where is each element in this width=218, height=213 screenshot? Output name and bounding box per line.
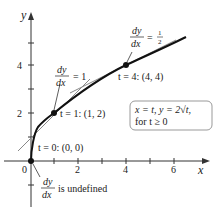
equation-line-2: for t ≥ 0 (135, 116, 167, 127)
svg-text:dx: dx (131, 38, 141, 49)
svg-text:=: = (147, 32, 153, 43)
svg-text:dy: dy (57, 64, 67, 75)
point-label-t0: t = 0: (0, 0) (38, 142, 83, 154)
slope-annotation-t4: dy dx = 1 2 (130, 25, 163, 49)
y-axis-label: y (20, 8, 27, 22)
svg-text:is undefined: is undefined (58, 183, 107, 194)
x-tick-2: 2 (75, 164, 80, 175)
y-tick-4: 4 (17, 60, 22, 71)
x-tick-4: 4 (123, 164, 128, 175)
svg-text:2: 2 (158, 38, 162, 46)
point-label-t1: t = 1: (1, 2) (60, 108, 105, 120)
point-t4 (123, 62, 129, 68)
diagram-canvas: y x 0 2 4 6 2 4 t = 0: (0, 0) t = 1: (1,… (0, 0, 218, 213)
svg-text:1: 1 (158, 29, 162, 37)
svg-text:dx: dx (56, 77, 66, 88)
slope-annotation-t1: dy dx = 1 (55, 64, 86, 88)
equation-line-1: x = t, y = 2√t, (134, 104, 191, 115)
point-t1 (51, 110, 57, 116)
svg-text:= 1: = 1 (73, 71, 86, 82)
parametric-diagram: y x 0 2 4 6 2 4 t = 0: (0, 0) t = 1: (1,… (0, 0, 218, 213)
x-tick-6: 6 (171, 164, 176, 175)
x-axis-label: x (197, 163, 204, 177)
svg-text:dy: dy (43, 176, 53, 187)
tangent-lines (18, 40, 176, 151)
svg-text:dy: dy (132, 25, 142, 36)
svg-text:dx: dx (42, 189, 52, 200)
point-label-t4: t = 4: (4, 4) (118, 71, 163, 83)
slope-annotation-t0: dy dx is undefined (41, 176, 107, 200)
equation-box: x = t, y = 2√t, for t ≥ 0 (130, 101, 212, 130)
y-tick-2: 2 (17, 108, 22, 119)
origin-label: 0 (22, 164, 27, 175)
point-t0 (28, 158, 34, 164)
y-axis-arrow-icon (28, 12, 34, 20)
